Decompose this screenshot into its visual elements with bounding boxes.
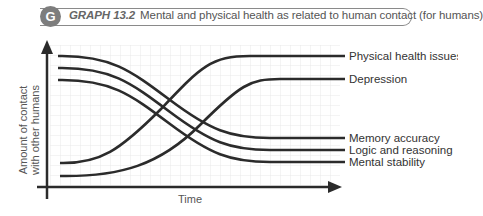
y-axis-label: Amount of contact with other humans bbox=[17, 85, 41, 176]
label-depression: Depression bbox=[349, 73, 407, 85]
label-mental-stability: Mental stability bbox=[349, 156, 425, 168]
y-axis-label-line1: Amount of contact bbox=[17, 86, 29, 175]
label-memory-accuracy: Memory accuracy bbox=[349, 132, 440, 144]
x-axis-label: Time bbox=[178, 193, 202, 205]
chart-grid bbox=[50, 45, 340, 185]
label-physical-health-issues: Physical health issues bbox=[349, 50, 458, 62]
y-axis-label-line2: with other humans bbox=[29, 85, 41, 176]
label-logic-and-reasoning: Logic and reasoning bbox=[349, 144, 453, 156]
